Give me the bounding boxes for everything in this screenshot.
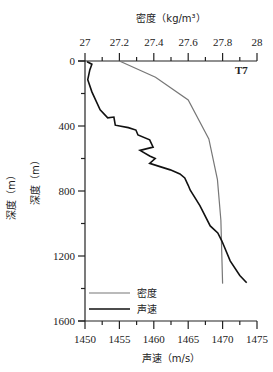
- top-tick-label: 28: [252, 36, 264, 48]
- top-tick-label: 27.4: [144, 36, 164, 48]
- bottom-tick-label: 1465: [177, 333, 200, 345]
- bottom-tick-label: 1470: [212, 333, 235, 345]
- sound-speed-line: [87, 62, 247, 283]
- y-tick-label: 800: [59, 185, 76, 197]
- top-axis-title: 密度（kg/m³）: [136, 12, 205, 24]
- bottom-tick-label: 1455: [108, 333, 131, 345]
- top-tick-label: 27: [80, 36, 92, 48]
- top-tick-label: 27.6: [179, 36, 199, 48]
- legend-speed-label: 声速: [137, 303, 157, 315]
- bottom-axis-title: 声速（m/s）: [142, 352, 200, 364]
- station-label: T7: [235, 64, 248, 76]
- bottom-tick-label: 1475: [246, 333, 269, 345]
- legend: 密度 声速: [89, 287, 157, 315]
- y-axis-title-1: 深度（m）: [5, 170, 17, 220]
- density-line: [119, 61, 222, 284]
- bottom-tick-label: 1460: [143, 333, 166, 345]
- top-tick-label: 27.8: [213, 36, 233, 48]
- y-tick-label: 400: [59, 120, 76, 132]
- y-axis-title-2: 深度（m）: [29, 155, 41, 205]
- y-tick-label: 1200: [53, 250, 76, 262]
- y-tick-label: 0: [70, 55, 76, 67]
- y-tick-label: 1600: [53, 315, 76, 327]
- chart: 2727.227.427.627.82814501455146014651470…: [0, 0, 273, 372]
- top-tick-label: 27.2: [110, 36, 129, 48]
- bottom-tick-label: 1450: [74, 333, 97, 345]
- legend-density-label: 密度: [137, 287, 157, 299]
